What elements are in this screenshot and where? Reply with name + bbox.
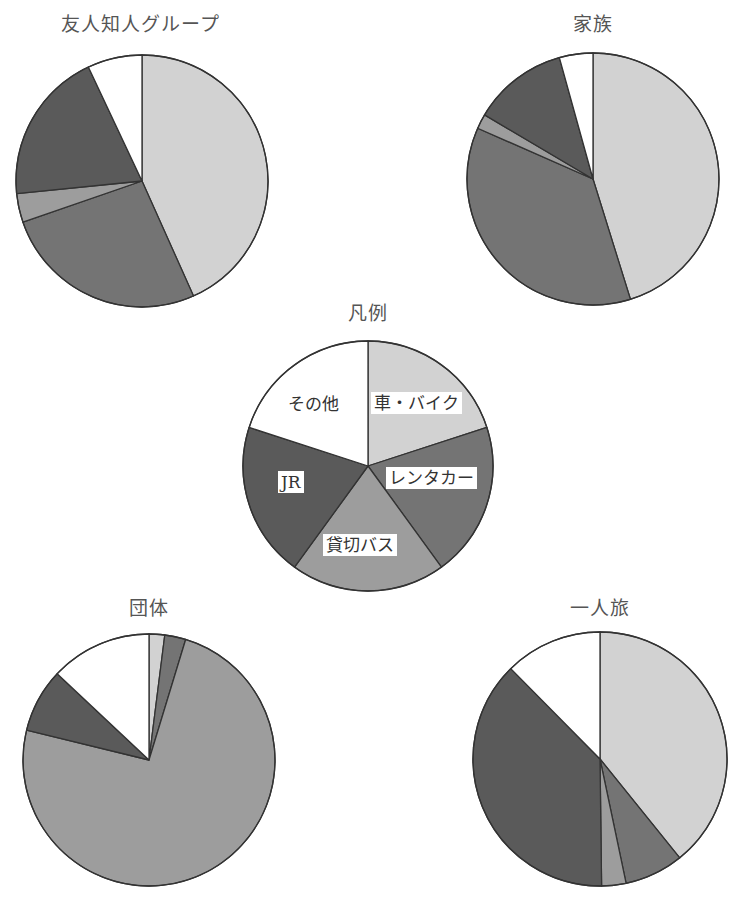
pie-chart-solo-travel	[473, 632, 727, 886]
pie-charts-canvas	[0, 0, 746, 910]
pie-chart-friends-group	[16, 55, 268, 307]
legend-label-car-bike: 車・バイク	[371, 392, 462, 414]
chart-title-family: 家族	[573, 9, 613, 36]
chart-title-group-tour: 団体	[129, 593, 169, 620]
legend-label-jr: JR	[278, 471, 304, 493]
legend-label-other: その他	[285, 393, 342, 415]
legend-label-rental-car: レンタカー	[386, 467, 477, 489]
chart-title-solo-travel: 一人旅	[570, 593, 630, 620]
legend-label-charter-bus: 貸切バス	[323, 534, 397, 556]
chart-title-friends-group: 友人知人グループ	[61, 9, 220, 36]
chart-title-legend: 凡例	[348, 298, 388, 325]
pie-chart-group-tour	[23, 634, 275, 886]
pie-chart-family	[467, 53, 719, 305]
